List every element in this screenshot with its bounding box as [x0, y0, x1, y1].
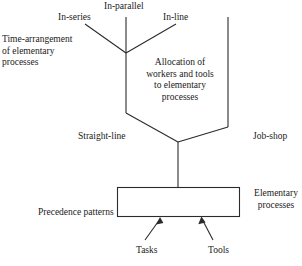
tasks-arrowhead [156, 217, 163, 225]
label-time-arrangement: Time-arrangement of elementary processes [2, 34, 82, 69]
label-in-line: In-line [163, 12, 188, 24]
diagram-canvas: In-series In-parallel In-line Time-arran… [0, 0, 302, 266]
label-tools: Tools [208, 245, 229, 257]
funnel-right-wall [178, 127, 228, 142]
label-tasks: Tasks [136, 245, 158, 257]
label-in-series: In-series [58, 12, 91, 24]
branch-in-line [126, 24, 176, 53]
label-allocation: Allocation of workers and tools to eleme… [144, 57, 216, 103]
funnel-left-wall [126, 113, 178, 142]
label-in-parallel: In-parallel [104, 1, 144, 13]
label-straight-line: Straight-line [78, 131, 126, 143]
label-precedence-patterns: Precedence patterns [38, 207, 114, 219]
branch-in-series [85, 24, 126, 53]
elementary-processes-box [118, 188, 240, 217]
label-job-shop: Job-shop [253, 131, 287, 143]
label-elementary-processes: Elementary processes [251, 188, 301, 211]
